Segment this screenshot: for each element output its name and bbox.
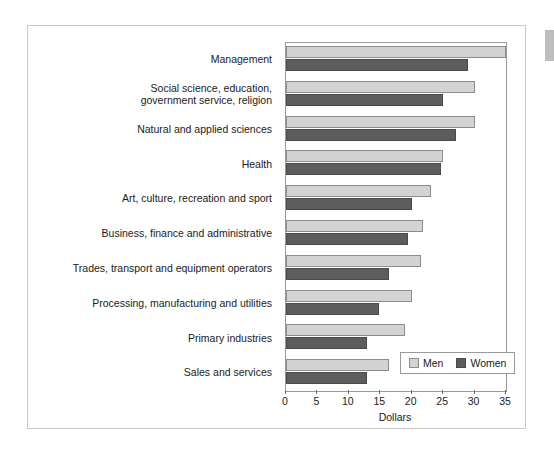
bar-group-row [286, 321, 506, 356]
bar-rows [286, 43, 506, 391]
x-tick [411, 390, 412, 394]
bar-women [286, 198, 412, 210]
category-label: Management [28, 53, 272, 66]
bar-group-row [286, 43, 506, 78]
legend-item-men: Men [409, 357, 443, 369]
chart-legend: Men Women [400, 352, 515, 374]
bar-women [286, 233, 408, 245]
bar-group-row [286, 78, 506, 113]
bar-women [286, 268, 389, 280]
category-label: Processing, manufacturing and utilities [28, 297, 272, 310]
bar-women [286, 303, 379, 315]
bar-group-row [286, 287, 506, 322]
legend-swatch-men-icon [409, 358, 419, 368]
x-tick [474, 390, 475, 394]
bar-group-row [286, 252, 506, 287]
x-tick [285, 390, 286, 394]
bar-women [286, 337, 367, 349]
bar-group-row [286, 147, 506, 182]
x-tick-label: 15 [373, 395, 385, 407]
bar-women [286, 129, 456, 141]
x-tick-label: 10 [342, 395, 354, 407]
plot-area [285, 42, 507, 392]
x-axis-title: Dollars [285, 411, 505, 423]
x-tick-label: 5 [314, 395, 320, 407]
category-label: Trades, transport and equipment operator… [28, 262, 272, 275]
x-tick [316, 390, 317, 394]
chart-frame: ManagementSocial science, education,gove… [27, 25, 526, 429]
x-tick-label: 25 [436, 395, 448, 407]
bar-women [286, 94, 443, 106]
x-tick [505, 390, 506, 394]
bar-men [286, 290, 412, 302]
x-axis-tick-labels: 05101520253035 [285, 395, 505, 409]
grouped-bar-chart: ManagementSocial science, education,gove… [28, 26, 527, 430]
bar-men [286, 359, 389, 371]
legend-item-women: Women [456, 357, 506, 369]
scrollbar-thumb[interactable] [545, 30, 554, 61]
category-label: Sales and services [28, 366, 272, 379]
x-tick-label: 30 [468, 395, 480, 407]
bar-men [286, 185, 431, 197]
bar-men [286, 324, 405, 336]
bar-group-row [286, 182, 506, 217]
x-tick [442, 390, 443, 394]
bar-men [286, 116, 475, 128]
legend-swatch-women-icon [456, 358, 466, 368]
legend-label-women: Women [470, 357, 506, 369]
category-label: Business, finance and administrative [28, 227, 272, 240]
x-tick [379, 390, 380, 394]
x-tick-label: 35 [499, 395, 511, 407]
x-tick-label: 20 [405, 395, 417, 407]
bar-men [286, 220, 423, 232]
bar-group-row [286, 217, 506, 252]
bar-men [286, 255, 421, 267]
screenshot-root: ManagementSocial science, education,gove… [0, 0, 554, 462]
bar-men [286, 81, 475, 93]
category-label: Art, culture, recreation and sport [28, 192, 272, 205]
category-label: Social science, education,government ser… [28, 82, 272, 107]
x-tick-label: 0 [282, 395, 288, 407]
x-tick [348, 390, 349, 394]
bar-group-row [286, 113, 506, 148]
bar-men [286, 150, 443, 162]
bar-women [286, 372, 367, 384]
category-label: Natural and applied sciences [28, 123, 272, 136]
category-label: Primary industries [28, 332, 272, 345]
bar-women [286, 59, 468, 71]
category-axis-labels: ManagementSocial science, education,gove… [28, 42, 280, 390]
legend-label-men: Men [423, 357, 443, 369]
bar-men [286, 46, 506, 58]
category-label: Health [28, 158, 272, 171]
bar-women [286, 163, 441, 175]
